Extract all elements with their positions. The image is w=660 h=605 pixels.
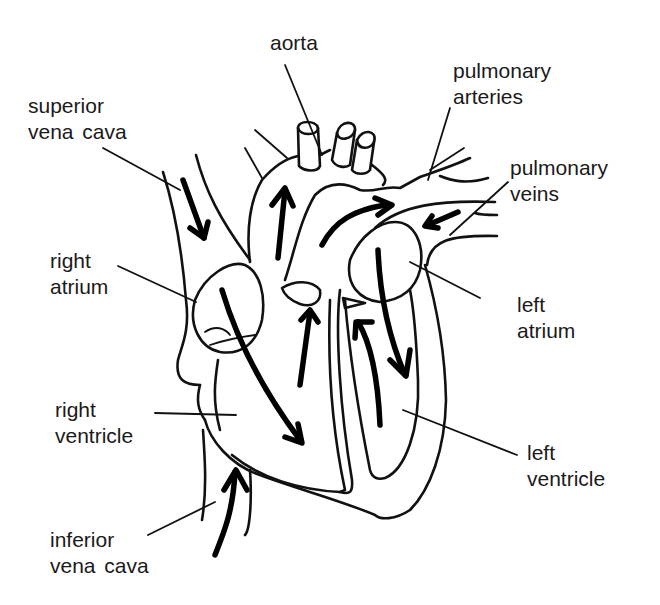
label-aorta: aorta [270, 30, 318, 56]
label-superior-vena-cava: superior vena cava [28, 93, 127, 145]
label-right-ventricle: right ventricle [55, 397, 133, 449]
label-left-atrium: left atrium [517, 292, 575, 344]
heart-outline [163, 108, 508, 535]
label-inferior-vena-cava: inferior vena cava [50, 527, 149, 579]
label-left-ventricle: left ventricle [527, 440, 605, 492]
leader-lines [103, 65, 517, 535]
label-right-atrium: right atrium [50, 248, 108, 300]
label-pulmonary-arteries: pulmonary arteries [453, 58, 551, 110]
label-pulmonary-veins: pulmonary veins [510, 155, 608, 207]
